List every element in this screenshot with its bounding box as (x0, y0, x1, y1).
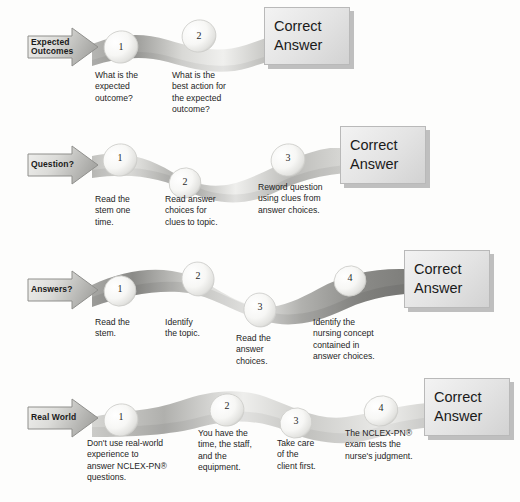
correct-answer-line1: Correct (274, 17, 322, 36)
arrow-label-expected-outcomes: Expected Outcomes (31, 38, 83, 56)
correct-answer-line2: Answer (274, 36, 322, 55)
arrow-label-answers: Answers? (31, 285, 83, 294)
step-caption-2: What is the best action for the expected… (172, 70, 254, 116)
step-caption-2: You have the time, the staff, and the eq… (198, 428, 274, 474)
step-number-1: 1 (109, 152, 131, 163)
step-number-3: 3 (285, 415, 307, 426)
correct-answer-line2: Answer (414, 279, 462, 298)
step-number-1: 1 (110, 411, 132, 422)
arrow-label-real-world: Real World (31, 413, 87, 422)
step-caption-3: Read the answer choices. (236, 333, 302, 367)
step-number-4: 4 (339, 272, 361, 283)
correct-answer-line1: Correct (434, 388, 482, 407)
flow-diagram-page: Expected Outcomes 1 2 What is the expect… (0, 0, 520, 502)
step-number-3: 3 (277, 152, 299, 163)
correct-answer-box-row4: Correct Answer (424, 378, 510, 436)
correct-answer-box-row3: Correct Answer (404, 250, 490, 308)
step-caption-3: Take care of the client first. (277, 438, 339, 472)
step-caption-2: Identify the topic. (165, 317, 235, 340)
step-number-3: 3 (249, 301, 271, 312)
correct-answer-line1: Correct (350, 136, 398, 155)
step-caption-3: Reword question using clues from answer … (258, 182, 358, 216)
step-number-2: 2 (187, 270, 209, 281)
flow-row-question: Question? 1 2 3 Read the stem one time. … (0, 120, 520, 245)
step-number-2: 2 (174, 176, 196, 187)
step-number-2: 2 (216, 400, 238, 411)
arrow-label-question: Question? (31, 160, 83, 169)
step-caption-4: Identify the nursing concept contained i… (313, 317, 413, 363)
flow-row-real-world: Real World 1 2 3 4 Don't use real-world … (0, 373, 520, 502)
correct-answer-box-row1: Correct Answer (264, 7, 350, 65)
step-caption-1: What is the expected outcome? (95, 70, 169, 104)
step-number-4: 4 (370, 402, 392, 413)
step-number-1: 1 (109, 283, 131, 294)
step-caption-1: Read the stem. (95, 317, 161, 340)
step-caption-2: Read answer choices for clues to topic. (165, 194, 249, 228)
step-number-2: 2 (188, 30, 210, 41)
step-caption-1: Read the stem one time. (95, 194, 161, 228)
flow-row-expected-outcomes: Expected Outcomes 1 2 What is the expect… (0, 0, 520, 120)
step-caption-1: Don't use real-world experience to answe… (87, 438, 197, 484)
correct-answer-box-row2: Correct Answer (340, 126, 426, 184)
correct-answer-line1: Correct (414, 260, 462, 279)
flow-row-answers: Answers? 1 2 3 4 Read the stem. Identify… (0, 245, 520, 373)
correct-answer-line2: Answer (350, 155, 398, 174)
correct-answer-line2: Answer (434, 407, 482, 426)
step-bubble-2[interactable] (206, 389, 250, 433)
step-number-1: 1 (110, 41, 132, 52)
